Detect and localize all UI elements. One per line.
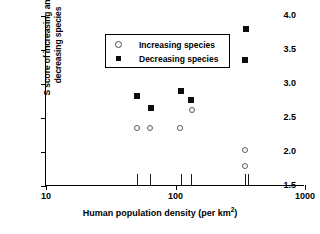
y-tick-mark — [41, 118, 46, 119]
data-point-increasing-species — [147, 125, 153, 131]
x-tick-mark — [176, 185, 177, 190]
legend-item-increasing-species: Increasing species — [106, 38, 229, 51]
x-tick-mark — [305, 185, 306, 190]
y-tick-label: 3.5 — [266, 45, 296, 54]
data-point-increasing-species — [189, 107, 195, 113]
y-tick-mark — [41, 16, 46, 17]
x-tick-label: 100 — [156, 192, 196, 201]
scatter-chart-figure: S score of increasing and decreasing spe… — [0, 0, 320, 234]
data-point-increasing-species — [177, 125, 183, 131]
x-axis-title-base: Human population density (per km — [83, 208, 231, 218]
legend-item-decreasing-species: Decreasing species — [106, 52, 229, 65]
x-axis-title-tail: ) — [234, 208, 237, 218]
legend-label-increasing-species: Increasing species — [139, 40, 215, 50]
x-tick-label: 10 — [26, 192, 66, 201]
rug-tick — [191, 174, 192, 185]
y-tick-label: 1.5 — [266, 181, 296, 190]
rug-tick — [248, 174, 249, 185]
x-axis-title: Human population density (per km2) — [0, 208, 320, 218]
open-circle-icon — [109, 41, 127, 48]
data-point-decreasing-species — [242, 57, 248, 63]
plot-area: 1.52.02.53.03.54.0 101001000 Increasing … — [45, 16, 304, 186]
data-point-decreasing-species — [188, 97, 194, 103]
filled-square-icon — [109, 56, 127, 61]
legend-label-decreasing-species: Decreasing species — [139, 54, 218, 64]
rug-tick — [181, 174, 182, 185]
y-tick-label: 2.5 — [266, 113, 296, 122]
y-tick-label: 3.0 — [266, 79, 296, 88]
data-point-increasing-species — [134, 125, 140, 131]
data-point-increasing-species — [242, 163, 248, 169]
data-point-decreasing-species — [134, 93, 140, 99]
data-point-decreasing-species — [178, 88, 184, 94]
y-tick-mark — [41, 84, 46, 85]
y-tick-mark — [41, 50, 46, 51]
y-tick-label: 4.0 — [266, 11, 296, 20]
data-point-increasing-species — [242, 147, 248, 153]
y-tick-label: 2.0 — [266, 147, 296, 156]
chart-legend: Increasing species Decreasing species — [105, 34, 230, 68]
data-point-decreasing-species — [148, 105, 154, 111]
x-tick-label: 1000 — [285, 192, 320, 201]
rug-tick — [137, 174, 138, 185]
data-point-decreasing-species — [243, 26, 249, 32]
rug-tick — [245, 174, 246, 185]
x-tick-mark — [46, 185, 47, 190]
rug-tick — [150, 174, 151, 185]
y-tick-mark — [41, 152, 46, 153]
